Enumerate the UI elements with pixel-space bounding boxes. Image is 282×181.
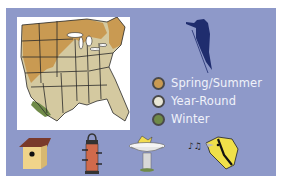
birdbath-icon bbox=[126, 134, 168, 174]
svg-text:♪♫: ♪♫ bbox=[188, 141, 202, 151]
birdhouse-icon bbox=[17, 135, 53, 171]
woodpecker-icon bbox=[184, 18, 218, 74]
legend-item-winter: Winter bbox=[152, 110, 262, 128]
legend-label: Winter bbox=[171, 112, 210, 126]
year-round-swatch-icon bbox=[152, 95, 165, 108]
range-map bbox=[17, 17, 130, 130]
legend-label: Spring/Summer bbox=[171, 76, 262, 90]
legend-item-year-round: Year-Round bbox=[152, 92, 262, 110]
spring-summer-swatch-icon bbox=[152, 77, 165, 90]
tube-feeder-icon bbox=[79, 132, 105, 176]
singing-bird-icon: ♪♫ bbox=[188, 135, 240, 171]
legend: Spring/Summer Year-Round Winter bbox=[152, 74, 262, 128]
legend-label: Year-Round bbox=[171, 94, 236, 108]
winter-swatch-icon bbox=[152, 113, 165, 126]
legend-item-spring-summer: Spring/Summer bbox=[152, 74, 262, 92]
us-map-icon bbox=[17, 17, 130, 130]
